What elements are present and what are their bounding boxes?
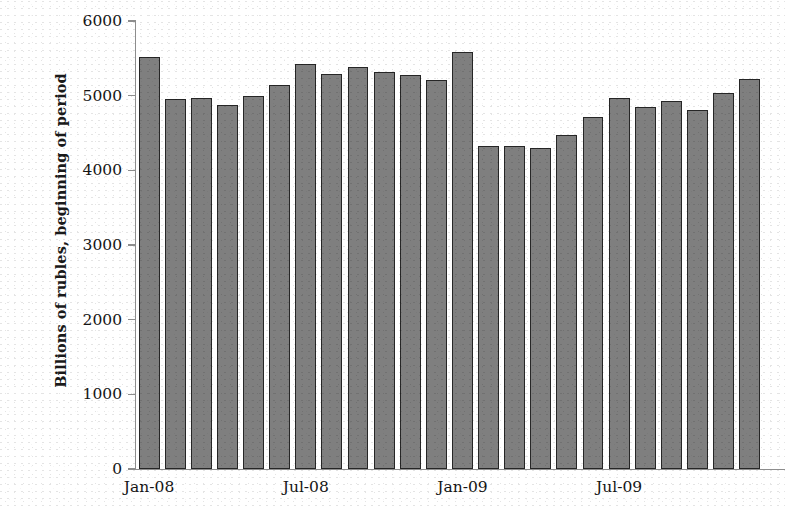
y-axis-tick-label: 1000 [0,385,122,403]
bar [426,80,447,469]
y-axis-tick [128,394,136,395]
bar [243,96,264,469]
bar [400,75,421,469]
bar [269,85,290,469]
bar [661,101,682,469]
y-axis-tick-label: 3000 [0,236,122,254]
y-axis-tick-label: 2000 [0,311,122,329]
y-axis-tick [128,468,136,469]
y-axis-tick [128,20,136,21]
bar [321,74,342,469]
x-axis-tick-label: Jul-09 [596,478,642,496]
bar [452,52,473,469]
bar [374,72,395,469]
bar [609,98,630,469]
y-axis-tick-label: 4000 [0,161,122,179]
bars-container [136,21,785,469]
x-axis-tick-label: Jan-08 [124,478,174,496]
y-axis-tick [128,95,136,96]
bar [530,148,551,469]
bar [217,105,238,469]
bar [687,110,708,469]
y-axis-title: Billions of rubles, beginning of period [52,21,69,441]
y-axis-tick-label: 0 [0,460,122,478]
bar [191,98,212,469]
y-axis-tick-label: 5000 [0,87,122,105]
bar [583,117,604,469]
bar [504,146,525,469]
y-axis-tick-label: 6000 [0,12,122,30]
bar [139,57,160,469]
x-axis-tick-label: Jan-09 [437,478,487,496]
bar [635,107,656,469]
x-axis-tick-label: Jul-08 [283,478,329,496]
bar-chart: Billions of rubles, beginning of period … [0,0,785,507]
bar [165,99,186,469]
y-axis-tick [128,319,136,320]
bar [556,135,577,470]
bar [295,64,316,469]
x-axis-line [135,469,785,470]
bar [713,93,734,469]
bar [348,67,369,469]
bar [739,79,760,469]
y-axis-tick [128,244,136,245]
y-axis-tick [128,170,136,171]
bar [478,146,499,469]
